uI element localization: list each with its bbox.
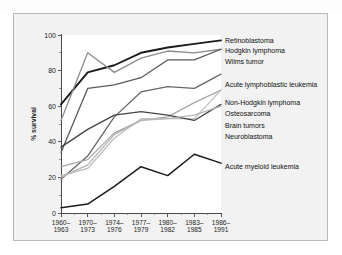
y-tick-label: 0 <box>52 210 56 217</box>
axis-titles: % survival <box>30 107 37 141</box>
y-axis: 020406080100 <box>44 32 61 217</box>
x-tick-label: 1960– <box>52 219 71 226</box>
x-tick-label: 1963 <box>54 226 69 233</box>
y-tick-label: 60 <box>48 103 56 110</box>
series-label-acute-lymphoblastic-leukemia: Acute lymphoblastic leukemia <box>225 81 317 89</box>
series-label-wilms-tumor: Wilms tumor <box>225 58 265 65</box>
y-tick-label: 20 <box>48 174 56 181</box>
x-tick-label: 1979 <box>134 226 149 233</box>
y-tick-label: 100 <box>44 32 56 39</box>
x-tick-label: 1985 <box>187 226 202 233</box>
y-axis-title: % survival <box>30 107 37 141</box>
chart-panel: 020406080100 1960–19631970–19731974–1976… <box>13 13 328 241</box>
x-tick-label: 1983– <box>185 219 204 226</box>
series-labels: RetinoblastomaHodgkin lymphomaWilms tumo… <box>225 37 317 171</box>
series-line-osteosarcoma <box>61 90 221 175</box>
x-tick-label: 1973 <box>80 226 95 233</box>
scan-artifact <box>0 0 342 11</box>
series-label-hodgkin-lymphoma: Hodgkin lymphoma <box>225 47 285 55</box>
series-label-osteosarcoma: Osteosarcoma <box>225 110 271 117</box>
x-tick-label: 1980– <box>158 219 177 226</box>
x-tick-label: 1977– <box>132 219 151 226</box>
series-label-retinoblastoma: Retinoblastoma <box>225 37 274 44</box>
series-label-brain-tumors: Brain tumors <box>225 122 265 129</box>
series-line-acute-lymphoblastic-leukemia <box>61 74 221 179</box>
series-line-brain-tumors <box>61 104 221 147</box>
survival-line-chart: 020406080100 1960–19631970–19731974–1976… <box>14 14 329 242</box>
y-tick-label: 80 <box>48 67 56 74</box>
x-tick-label: 1986– <box>212 219 231 226</box>
series-label-non-hodgkin-lymphoma: Non-Hodgkin lymphoma <box>225 99 300 107</box>
x-axis: 1960–19631970–19731974–19761977–19791980… <box>52 213 231 233</box>
x-tick-label: 1982 <box>160 226 175 233</box>
series-line-acute-myeloid-leukemia <box>61 154 221 207</box>
x-tick-label: 1974– <box>105 219 124 226</box>
figure-root: 020406080100 1960–19631970–19731974–1976… <box>0 0 342 255</box>
x-tick-label: 1991 <box>214 226 229 233</box>
series-label-acute-myeloid-leukemia: Acute myeloid leukemia <box>225 163 299 171</box>
series-line-hodgkin-lymphoma <box>61 49 221 120</box>
series-lines <box>61 40 221 207</box>
y-tick-label: 40 <box>48 138 56 145</box>
x-tick-label: 1970– <box>78 219 97 226</box>
series-label-neuroblastoma: Neuroblastoma <box>225 133 273 140</box>
x-tick-label: 1976 <box>107 226 122 233</box>
